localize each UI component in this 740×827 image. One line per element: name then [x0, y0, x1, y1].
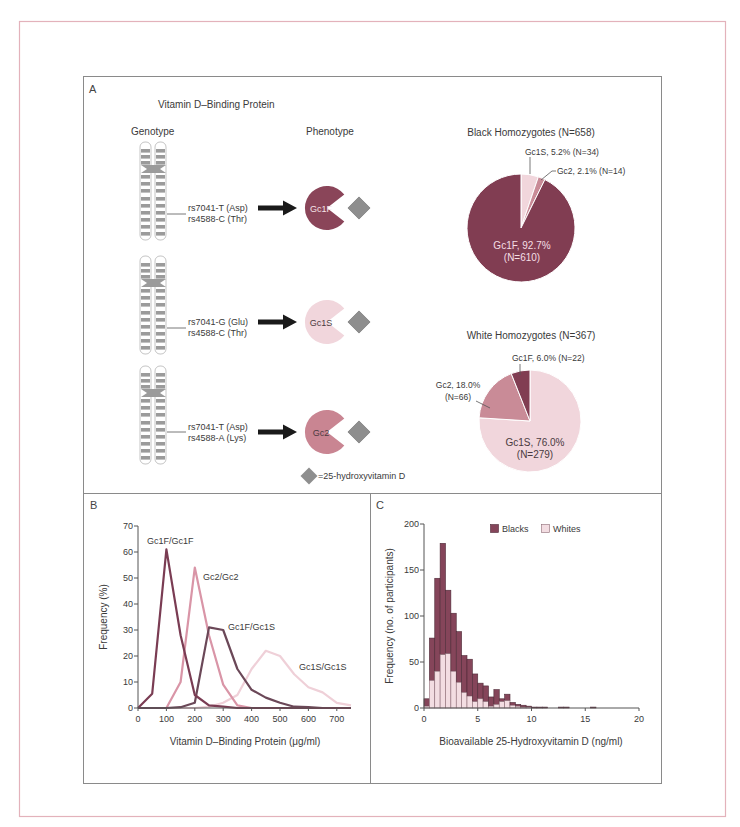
- x-tick-label: 20: [634, 714, 644, 724]
- chromosome-band: [141, 182, 150, 186]
- histogram-bar-blacks: [499, 699, 504, 702]
- histogram-bar-blacks: [456, 632, 461, 683]
- chromosome-band: [156, 406, 165, 410]
- histogram-bar-whites: [483, 702, 488, 708]
- chromosome-band: [141, 275, 150, 279]
- snp-rs4588: rs4588-C (Thr): [188, 328, 247, 338]
- x-tick-label: 300: [216, 714, 231, 724]
- chromosome-band: [141, 211, 150, 215]
- chromosome-band: [141, 385, 150, 389]
- panel-b-y-axis-label: Frequency (%): [98, 584, 109, 650]
- chromosome-band: [156, 311, 165, 315]
- chromosome-band: [141, 175, 150, 179]
- histogram-bar-whites: [440, 655, 445, 708]
- chromosome-band: [141, 449, 150, 453]
- snp-rs7041: rs7041-G (Glu): [188, 317, 248, 327]
- black-pie-label-gc2: Gc2, 2.1% (N=14): [557, 166, 625, 176]
- histogram-bar-blacks: [440, 543, 445, 654]
- chromosome-band: [156, 218, 165, 222]
- panel-a-label: A: [89, 83, 97, 95]
- y-tick-label: 50: [123, 573, 133, 583]
- histogram-bar-whites: [446, 654, 451, 708]
- chromosome-band: [156, 428, 165, 432]
- white-pie-label-gc1f: Gc1F, 6.0% (N=22): [512, 353, 585, 363]
- chromosome-band: [141, 435, 150, 439]
- chromosome-band: [156, 413, 165, 417]
- snp-rs4588: rs4588-A (Lys): [188, 433, 246, 443]
- chromosome-band: [156, 175, 165, 179]
- black-pie-title: Black Homozygotes (N=658): [467, 127, 595, 138]
- black-pie-slices: [467, 174, 575, 282]
- chromosome-band: [141, 155, 150, 159]
- series-label-gc2-gc2: Gc2/Gc2: [203, 572, 239, 582]
- legend-vitamin-d-text: =25-hydroxyvitamin D: [318, 471, 406, 481]
- x-tick-label: 15: [580, 714, 590, 724]
- chromosome-band: [141, 373, 150, 377]
- y-tick-label: 150: [404, 565, 419, 575]
- chromosome-band: [156, 318, 165, 322]
- chromosome-band: [156, 155, 165, 159]
- panel-b-x-axis-label: Vitamin D–Binding Protein (μg/ml): [170, 736, 321, 747]
- snp-rs7041: rs7041-T (Asp): [188, 203, 248, 213]
- chromosome-band: [156, 385, 165, 389]
- panel-c-y-axis-label: Frequency (no. of participants): [384, 548, 395, 684]
- histogram-bar-whites: [429, 680, 434, 708]
- x-tick-label: 0: [135, 714, 140, 724]
- outer-frame: [20, 22, 726, 817]
- series-label-gc1f-gc1f: Gc1F/Gc1F: [147, 536, 194, 546]
- chromosome-band: [156, 225, 165, 229]
- chromosome-band: [141, 204, 150, 208]
- chromosome-band: [141, 456, 150, 460]
- y-tick-label: 20: [123, 651, 133, 661]
- histogram-bar-blacks: [472, 674, 477, 702]
- x-tick-label: 5: [475, 714, 480, 724]
- chromosome-band: [156, 269, 165, 273]
- histogram-bar-blacks: [467, 659, 472, 696]
- x-tick-label: 10: [526, 714, 536, 724]
- chromosome-band: [156, 149, 165, 153]
- chromosome-band: [141, 269, 150, 273]
- chromosome-band: [141, 332, 150, 336]
- chromosome-band: [156, 161, 165, 165]
- chromosome-band: [141, 161, 150, 165]
- chromosome-band: [156, 189, 165, 193]
- histogram-bar-blacks: [489, 697, 494, 706]
- white-pie-title: White Homozygotes (N=367): [467, 330, 596, 341]
- chromosome-band: [141, 442, 150, 446]
- chromosome-band: [156, 197, 165, 201]
- y-tick-label: 70: [123, 521, 133, 531]
- legend-label-blacks: Blacks: [502, 524, 529, 534]
- series-label-gc1s-gc1s: Gc1S/Gc1S: [299, 662, 347, 672]
- histogram-bar-whites: [435, 671, 440, 708]
- histogram-bar-whites: [478, 699, 483, 708]
- chromosome-band: [156, 435, 165, 439]
- figure-canvas: A Vitamin D–Binding Protein Genotype Phe…: [0, 0, 740, 827]
- y-tick-label: 0: [128, 703, 133, 713]
- legend-label-whites: Whites: [553, 524, 581, 534]
- chromosome-band: [141, 318, 150, 322]
- series-label-gc1f-gc1s: Gc1F/Gc1S: [228, 622, 275, 632]
- chromosome-band: [141, 339, 150, 343]
- chromosome-band: [156, 289, 165, 293]
- black-pie-label-gc1f: Gc1F, 92.7%: [493, 240, 550, 251]
- chromosome-band: [156, 232, 165, 236]
- chromosome-band: [141, 325, 150, 329]
- y-tick-label: 40: [123, 599, 133, 609]
- x-tick-label: 500: [272, 714, 287, 724]
- chromosome-band: [141, 406, 150, 410]
- chromosome-band: [156, 296, 165, 300]
- snp-rs7041: rs7041-T (Asp): [188, 422, 248, 432]
- histogram-bar-whites: [494, 704, 499, 708]
- snp-rs4588: rs4588-C (Thr): [188, 214, 247, 224]
- chromosome-band: [156, 204, 165, 208]
- histogram-bar-blacks: [435, 578, 440, 671]
- legend-swatch-whites: [542, 525, 550, 533]
- histogram-bar-whites: [472, 702, 477, 708]
- chromosome-band: [156, 303, 165, 307]
- chromosome-band: [141, 413, 150, 417]
- chromosome-band: [156, 211, 165, 215]
- y-tick-label: 200: [404, 519, 419, 529]
- chromosome-band: [156, 421, 165, 425]
- chromosome-band: [141, 232, 150, 236]
- chromosome-band: [156, 379, 165, 383]
